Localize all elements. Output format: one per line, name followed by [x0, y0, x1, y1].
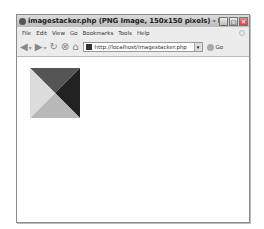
home-icon[interactable]: ⌂: [72, 42, 78, 52]
reload-icon[interactable]: ↻: [49, 42, 57, 52]
throbber-icon: [239, 30, 245, 36]
url-dropdown-icon[interactable]: ▾: [194, 43, 202, 51]
forward-icon[interactable]: ▶: [35, 42, 43, 52]
menu-go[interactable]: Go: [70, 30, 78, 36]
page-content: [17, 57, 249, 222]
menu-tools[interactable]: Tools: [118, 30, 132, 36]
url-input[interactable]: http://localhost/imagestacker.php: [95, 44, 187, 50]
menu-edit[interactable]: Edit: [36, 30, 47, 36]
page-favicon-icon: [86, 44, 92, 50]
window-title: imagestacker.php (PNG Image, 150x150 pix…: [28, 17, 219, 25]
menu-file[interactable]: File: [22, 30, 31, 36]
url-bar[interactable]: http://localhost/imagestacker.php ▾: [83, 42, 203, 52]
forward-dropdown-icon[interactable]: ▾: [43, 44, 46, 51]
title-bar: imagestacker.php (PNG Image, 150x150 pix…: [17, 15, 249, 27]
menu-bookmarks[interactable]: Bookmarks: [83, 30, 114, 36]
back-icon[interactable]: ◀: [20, 42, 28, 52]
stop-icon[interactable]: ⊗: [61, 42, 69, 52]
go-icon[interactable]: [207, 44, 214, 51]
menu-view[interactable]: View: [52, 30, 65, 36]
stacked-triangles-image: [30, 68, 80, 118]
back-dropdown-icon[interactable]: ▾: [29, 44, 32, 51]
firefox-icon: [19, 18, 26, 25]
go-button[interactable]: Go: [216, 44, 224, 50]
menu-help[interactable]: Help: [137, 30, 150, 36]
minimize-button[interactable]: _: [219, 17, 228, 26]
maximize-button[interactable]: □: [229, 17, 238, 26]
navigation-toolbar: ◀ ▾ ▶ ▾ ↻ ⊗ ⌂ http://localhost/imagestac…: [17, 38, 249, 57]
close-button[interactable]: ✕: [239, 17, 248, 26]
browser-window: imagestacker.php (PNG Image, 150x150 pix…: [16, 14, 250, 223]
